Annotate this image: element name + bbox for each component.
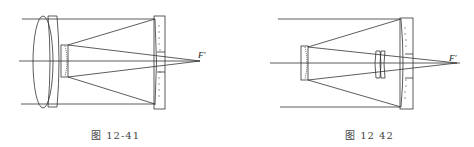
- figure-12-42-drawing: [270, 18, 460, 109]
- optical-diagrams: [0, 0, 474, 147]
- focus-label-fig42: F′: [449, 53, 456, 63]
- caption-fig-12-41: 图 12-41: [91, 127, 140, 142]
- caption-fig-12-42: 图 12 42: [345, 127, 394, 142]
- focus-label-fig41: F′: [198, 50, 205, 60]
- figure-12-41-drawing: [19, 16, 200, 109]
